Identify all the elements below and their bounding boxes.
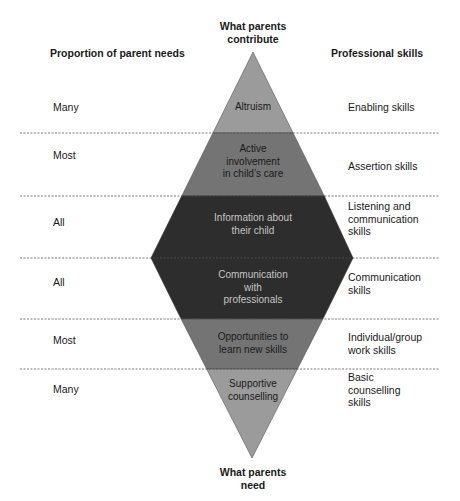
proportion-row-6: Many bbox=[53, 383, 79, 395]
skill-row-3: Listening and communication skills bbox=[348, 200, 419, 238]
header-bottom-line-2: need bbox=[193, 479, 313, 492]
parent-item-altruism: Altruism bbox=[193, 101, 313, 114]
skill-row-4: Communication skills bbox=[348, 271, 421, 296]
parent-item-supportive: Supportive counselling bbox=[193, 378, 313, 403]
parent-item-opportunities: Opportunities to learn new skills bbox=[193, 331, 313, 356]
parent-item-active-involvement: Active involvement in child’s care bbox=[193, 143, 313, 181]
header-top-center: What parents contribute bbox=[193, 20, 313, 46]
parent-item-communication: Communication with professionals bbox=[193, 269, 313, 307]
proportion-row-3: All bbox=[53, 216, 65, 228]
header-top-line-1: What parents bbox=[193, 20, 313, 33]
proportion-row-4: All bbox=[53, 276, 65, 288]
skill-row-2: Assertion skills bbox=[348, 160, 417, 173]
proportion-row-2: Most bbox=[53, 149, 76, 161]
skill-row-5: Individual/group work skills bbox=[348, 331, 422, 356]
diamond-diagram bbox=[0, 0, 460, 501]
header-bottom-line-1: What parents bbox=[193, 466, 313, 479]
proportion-row-1: Many bbox=[53, 101, 79, 113]
header-right: Professional skills bbox=[331, 47, 423, 59]
header-top-line-2: contribute bbox=[193, 33, 313, 46]
parent-item-information: Information about their child bbox=[193, 212, 313, 237]
band-altruism bbox=[213, 52, 293, 133]
header-left: Proportion of parent needs bbox=[50, 47, 185, 59]
skill-row-1: Enabling skills bbox=[348, 101, 415, 114]
header-bottom-center: What parents need bbox=[193, 466, 313, 492]
skill-row-6: Basic counselling skills bbox=[348, 371, 401, 409]
proportion-row-5: Most bbox=[53, 334, 76, 346]
